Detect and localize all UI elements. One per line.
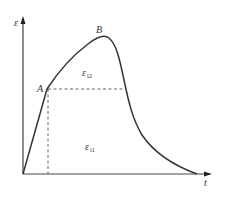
y-axis-arrow-icon	[21, 16, 26, 24]
region-lower-subscript: i1	[90, 146, 95, 153]
diagram-canvas: ε t A B ε i2 ε i1	[0, 0, 230, 198]
strain-time-diagram: ε t A B ε i2 ε i1	[0, 0, 230, 198]
region-upper-symbol: ε	[82, 67, 86, 78]
strain-curve	[23, 36, 197, 174]
point-a-label: A	[36, 83, 44, 94]
region-upper-subscript: i2	[87, 72, 92, 79]
region-lower-symbol: ε	[85, 141, 89, 152]
point-b-label: B	[96, 24, 102, 35]
x-axis-arrow-icon	[204, 172, 212, 177]
x-axis-label: t	[204, 177, 207, 188]
y-axis-label: ε	[14, 17, 18, 28]
region-label-upper: ε i2	[82, 67, 92, 79]
region-label-lower: ε i1	[85, 141, 95, 153]
